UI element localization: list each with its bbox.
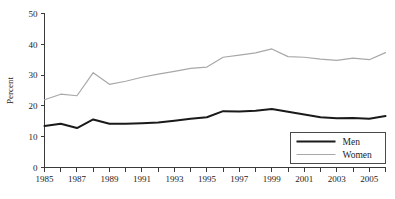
x-tick-label: 2001 [295,174,313,184]
x-tick-label: 1999 [263,174,282,184]
x-tick-label: 1995 [198,174,217,184]
x-axis-ticks: 1985198719891991199319951997199920012003… [36,168,386,184]
y-axis-title: Percent [5,77,15,104]
chart-legend: Men Women [291,133,386,164]
legend-label-women: Women [343,150,373,160]
chart-canvas: 01020304050 1985198719891991199319951997… [0,0,395,199]
x-tick-label: 1997 [230,174,249,184]
x-tick-label: 2003 [328,174,347,184]
legend-label-men: Men [343,137,361,147]
x-tick-label: 1993 [165,174,184,184]
y-axis-ticks: 01020304050 [29,9,45,173]
x-tick-label: 1987 [68,174,87,184]
x-tick-label: 1991 [133,174,151,184]
y-tick-label: 40 [29,40,39,50]
series-line-women [45,49,386,100]
x-tick-label: 1989 [100,174,119,184]
x-tick-label: 2005 [360,174,379,184]
y-tick-label: 20 [29,101,39,111]
y-tick-label: 0 [33,163,38,173]
y-tick-label: 30 [29,70,39,80]
y-tick-label: 10 [29,132,39,142]
x-tick-label: 1985 [36,174,55,184]
y-tick-label: 50 [29,9,39,19]
series-line-men [45,109,386,128]
line-chart: 01020304050 1985198719891991199319951997… [0,0,395,199]
